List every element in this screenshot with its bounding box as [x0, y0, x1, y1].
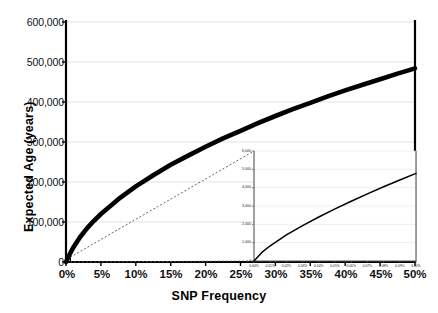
inset-y-axis-tick-label: 5,000	[230, 167, 251, 171]
x-axis-title: SNP Frequency	[0, 289, 438, 303]
inset-x-axis-tick-label: 0.10%	[407, 264, 425, 268]
chart-figure: 600,000 500,000 400,000 300,000 200,000 …	[0, 0, 438, 313]
y-axis-tick-label: 600,000	[6, 16, 64, 28]
x-axis-tick-label: 15%	[151, 268, 191, 280]
x-axis-tick-label: 0%	[47, 268, 87, 280]
x-axis-tick-label: 10%	[116, 268, 156, 280]
x-axis-tick-label: 35%	[291, 268, 331, 280]
inset-y-axis-tick-label: 4,000	[230, 185, 251, 189]
x-axis-tick-label: 50%	[395, 268, 435, 280]
inset-y-axis-tick-label: 3,000	[230, 204, 251, 208]
inset-y-axis-tick-label: 6,000	[230, 149, 251, 153]
y-axis-title: Expected Age (years)	[22, 101, 36, 232]
y-axis-tick-label: 500,000	[6, 56, 64, 68]
x-axis-tick-label: 25%	[221, 268, 261, 280]
x-axis-tick-label: 30%	[256, 268, 296, 280]
inset-y-axis-tick-label: 0	[230, 259, 251, 263]
x-axis-tick-label: 20%	[186, 268, 226, 280]
inset-y-axis-tick-label: 1,000	[230, 240, 251, 244]
leader-line-upper	[70, 151, 254, 257]
y-axis-tick-label: 0	[6, 256, 64, 268]
inset-y-axis-tick-label: 2,000	[230, 222, 251, 226]
x-axis-tick-label: 40%	[326, 268, 366, 280]
